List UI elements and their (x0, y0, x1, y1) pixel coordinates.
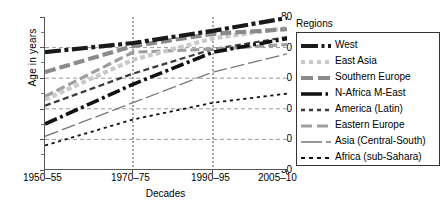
legend-label: West (335, 39, 358, 50)
legend-item-southern-europe[interactable]: Southern Europe (301, 68, 436, 84)
legend-label: Eastern Europe (335, 119, 405, 130)
legend-label: Southern Europe (335, 71, 411, 82)
legend-label: N-Africa M-East (335, 87, 406, 98)
x-tick-label-1950-55: 1950–55 (23, 172, 62, 183)
legend-swatch-west (301, 38, 331, 50)
x-tick-label-1970-75: 1970–75 (111, 172, 150, 183)
legend-swatch-n-africa-m-east (301, 86, 331, 98)
series-africa-sub-sahara (45, 94, 287, 146)
series-asia-central-south (45, 54, 287, 137)
x-tick-label-2005-10: 2005–10 (258, 172, 297, 183)
legend-label: Africa (sub-Sahara) (335, 151, 422, 162)
legend-swatch-asia-central-south (301, 134, 331, 146)
legend-title: Regions (296, 18, 333, 29)
legend-label: Asia (Central-South) (335, 135, 426, 146)
legend-swatch-eastern-europe (301, 118, 331, 130)
legend-label: America (Latin) (335, 103, 403, 114)
legend-swatch-africa-sub-sahara (301, 150, 331, 162)
x-tick-label-1990-95: 1990–95 (191, 172, 230, 183)
legend-box: West East Asia Southern Europe N-Africa … (296, 32, 440, 166)
legend-item-n-africa-m-east[interactable]: N-Africa M-East (301, 84, 436, 100)
legend-item-america-latin[interactable]: America (Latin) (301, 100, 436, 116)
legend-item-africa-sub-sahara[interactable]: Africa (sub-Sahara) (301, 148, 436, 164)
chart-figure: Age in years 80 70 60 50 40 30 (0, 0, 444, 207)
legend-swatch-southern-europe (301, 70, 331, 82)
legend-item-asia-central-south[interactable]: Asia (Central-South) (301, 132, 436, 148)
plot-region: Age in years 80 70 60 50 40 30 (0, 0, 292, 207)
legend-item-west[interactable]: West (301, 36, 436, 52)
plot-canvas (44, 17, 287, 170)
legend-swatch-america-latin (301, 102, 331, 114)
legend-swatch-east-asia (301, 54, 331, 66)
legend-item-eastern-europe[interactable]: Eastern Europe (301, 116, 436, 132)
y-axis-title: Age in years (27, 10, 38, 106)
legend-item-east-asia[interactable]: East Asia (301, 52, 436, 68)
x-axis-title: Decades (44, 188, 287, 199)
legend-label: East Asia (335, 55, 377, 66)
